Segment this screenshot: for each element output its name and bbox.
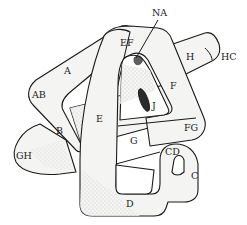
inner-hole-d xyxy=(116,165,154,194)
label-cd: CD xyxy=(165,146,180,157)
label-h: H xyxy=(186,51,194,62)
label-ab: AB xyxy=(31,89,46,100)
label-gh: GH xyxy=(16,150,32,161)
label-hc: HC xyxy=(221,51,237,62)
label-f: F xyxy=(170,80,177,91)
label-j: J xyxy=(151,100,156,111)
label-na: NA xyxy=(152,7,167,18)
label-d: D xyxy=(126,198,134,209)
label-g: G xyxy=(130,135,138,146)
strand-na-knot xyxy=(134,56,142,65)
label-e: E xyxy=(96,113,103,124)
label-ef: EF xyxy=(120,37,134,48)
crossing-line-g-lower xyxy=(116,152,160,164)
label-b: B xyxy=(56,125,63,136)
knot-diagram: NA EF H HC A AB F J E B FG G CD GH C D xyxy=(0,0,247,225)
label-fg: FG xyxy=(184,122,198,133)
label-a: A xyxy=(63,65,71,76)
label-c: C xyxy=(191,170,198,181)
